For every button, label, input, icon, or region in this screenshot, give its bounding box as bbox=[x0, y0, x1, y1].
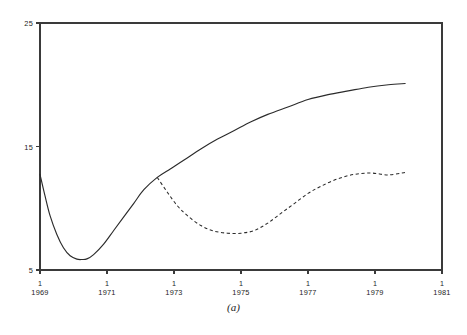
line-chart: 51525 1196911971119731197511977119791198… bbox=[0, 0, 467, 335]
y-tick-label: 15 bbox=[24, 143, 33, 152]
x-tick-year-label: 1969 bbox=[31, 288, 48, 297]
x-tick-marks bbox=[40, 270, 442, 274]
x-tick-quarter-label: 1 bbox=[440, 279, 444, 288]
series-line-dashed bbox=[157, 172, 405, 233]
x-tick-year-label: 1977 bbox=[299, 288, 316, 297]
y-tick-label: 5 bbox=[29, 266, 33, 275]
x-tick-year-label: 1971 bbox=[98, 288, 115, 297]
x-tick-year-label: 1973 bbox=[165, 288, 182, 297]
y-tick-label: 25 bbox=[24, 19, 33, 28]
figure-caption: (a) bbox=[0, 301, 467, 313]
y-tick-marks bbox=[36, 23, 40, 270]
x-tick-quarter-label: 1 bbox=[105, 279, 109, 288]
x-tick-quarter-label: 1 bbox=[172, 279, 176, 288]
x-tick-quarter-label: 1 bbox=[306, 279, 310, 288]
x-tick-labels: 11969119711197311975119771197911981 bbox=[31, 279, 450, 297]
y-tick-labels: 51525 bbox=[24, 19, 33, 275]
x-tick-year-label: 1981 bbox=[433, 288, 450, 297]
x-tick-quarter-label: 1 bbox=[239, 279, 243, 288]
x-tick-quarter-label: 1 bbox=[38, 279, 42, 288]
figure-container: 51525 1196911971119731197511977119791198… bbox=[0, 0, 467, 335]
x-tick-year-label: 1975 bbox=[232, 288, 249, 297]
chart-series bbox=[40, 84, 405, 260]
x-tick-year-label: 1979 bbox=[366, 288, 383, 297]
x-tick-quarter-label: 1 bbox=[373, 279, 377, 288]
